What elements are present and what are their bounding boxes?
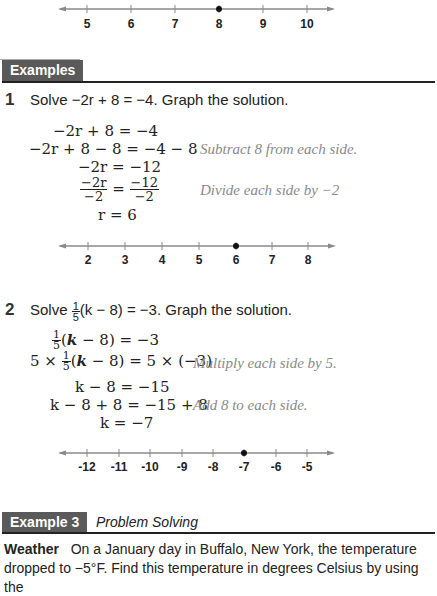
- step-equation: −2r = −12: [78, 158, 161, 176]
- section-header: Examples: [2, 60, 83, 81]
- tick-label: 10: [300, 17, 313, 31]
- tick-label: 5: [196, 253, 203, 267]
- number-line-top: 5 6 7 8 9 10: [0, 0, 437, 40]
- fraction-numerator: −2r: [80, 176, 107, 190]
- tick-label: 7: [172, 17, 179, 31]
- tick-label: 9: [260, 17, 267, 31]
- example-prompt: Solve 15(k − 8) = −3. Graph the solution…: [30, 301, 292, 322]
- prompt-equation: (k − 8) = −3: [80, 301, 157, 318]
- tick-label: 8: [305, 253, 312, 267]
- tick-label: -9: [177, 460, 188, 474]
- step-equation-fraction: 5 × 15(k − 8) = 5 × (−3): [30, 351, 212, 372]
- header-rule: [2, 81, 435, 83]
- problem-text: Weather On a January day in Buffalo, New…: [4, 540, 434, 596]
- tick-label: 3: [122, 253, 129, 267]
- example3-subtitle: Problem Solving: [96, 514, 198, 530]
- problem-body: On a January day in Buffalo, New York, t…: [4, 541, 419, 595]
- tick-label: 5: [84, 17, 91, 31]
- step-note: Add 8 to each side.: [193, 397, 308, 414]
- solution-point: [241, 450, 247, 456]
- number-line-example2: -12 -11 -10 -9 -8 -7 -6 -5: [0, 444, 437, 484]
- fraction-numerator: −12: [130, 176, 159, 190]
- prompt-equation: −2r + 8 = −4: [72, 91, 154, 108]
- tick-label: -11: [111, 460, 128, 474]
- prompt-text: . Graph the solution.: [157, 301, 292, 318]
- step-equation: r = 6: [98, 206, 137, 224]
- step-equation: k = −7: [100, 414, 153, 432]
- tick-label: -12: [78, 460, 95, 474]
- fraction-denominator: −2: [130, 190, 159, 203]
- header-rule: [2, 532, 435, 534]
- tick-label: 8: [216, 17, 223, 31]
- example3-header: Example 3: [2, 512, 87, 533]
- fraction-denominator: 5: [72, 312, 80, 322]
- tick-label: 4: [159, 253, 166, 267]
- tick-label: -6: [271, 460, 282, 474]
- prompt-text: . Graph the solution.: [153, 91, 288, 108]
- tick-label: 6: [128, 17, 135, 31]
- example-prompt: Solve −2r + 8 = −4. Graph the solution.: [30, 91, 289, 108]
- solution-point: [233, 243, 239, 249]
- prompt-text: Solve: [30, 301, 72, 318]
- tick-label: -8: [208, 460, 219, 474]
- step-equation-fraction: −2r−2 = −12−2: [80, 176, 159, 203]
- tick-label: 7: [269, 253, 276, 267]
- step-equation: −2r + 8 − 8 = −4 − 8: [29, 140, 197, 158]
- tick-label: -5: [302, 460, 313, 474]
- tick-label: 6: [233, 253, 240, 267]
- example-number: 1: [5, 90, 14, 110]
- fraction-denominator: −2: [80, 190, 107, 203]
- tick-label: -7: [239, 460, 250, 474]
- number-line-axis: [0, 237, 437, 257]
- step-equation: −2r + 8 = −4: [53, 122, 158, 140]
- solution-point: [216, 6, 222, 12]
- step-note: Subtract 8 from each side.: [200, 141, 357, 158]
- step-note: Multiply each side by 5.: [193, 355, 337, 372]
- example-number: 2: [5, 300, 14, 320]
- step-equation: k − 8 + 8 = −15 + 8: [50, 396, 208, 414]
- tick-label: 2: [85, 253, 92, 267]
- step-equation: k − 8 = −15: [75, 378, 170, 396]
- step-equation-fraction: 15(k − 8) = −3: [52, 330, 159, 351]
- number-line-example1: 2 3 4 5 6 7 8: [0, 237, 437, 277]
- problem-topic: Weather: [4, 541, 59, 557]
- tick-label: -10: [141, 460, 158, 474]
- step-note: Divide each side by −2: [200, 182, 339, 199]
- prompt-text: Solve: [30, 91, 72, 108]
